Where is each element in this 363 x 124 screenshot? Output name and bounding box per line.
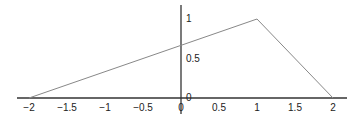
y-tick-label: 0 [186,92,192,103]
axes [17,5,347,114]
x-tick-label: −1 [99,102,111,113]
y-tick-label: 0.5 [186,53,200,64]
x-tick-label: −1.5 [57,102,77,113]
x-tick-label: 1.5 [288,102,302,113]
y-tick-labels: 00.51 [186,13,200,103]
x-tick-label: 1 [254,102,260,113]
x-tick-labels: −2−1.5−1−0.500.511.52 [23,102,336,113]
x-tick-label: −0.5 [133,102,153,113]
line-chart: −2−1.5−1−0.500.511.52 00.51 [0,0,363,124]
x-tick-label: 0 [178,102,184,113]
x-tick-label: 2 [330,102,336,113]
x-tick-label: −2 [23,102,35,113]
x-tick-label: 0.5 [212,102,226,113]
y-tick-label: 1 [186,13,192,24]
